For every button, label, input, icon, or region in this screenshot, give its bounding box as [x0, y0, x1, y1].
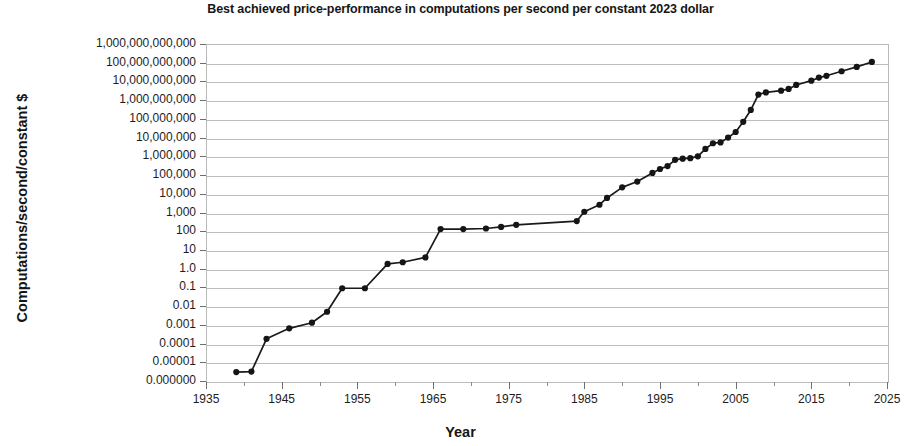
data-point — [422, 254, 428, 260]
data-point — [778, 88, 784, 94]
chart-figure: Best achieved price-performance in compu… — [0, 0, 921, 446]
data-point — [740, 119, 746, 125]
data-point — [400, 259, 406, 265]
data-point — [725, 135, 731, 141]
data-point — [793, 82, 799, 88]
data-point — [702, 146, 708, 152]
data-point — [574, 218, 580, 224]
data-point — [385, 261, 391, 267]
data-point — [460, 226, 466, 232]
data-point — [786, 86, 792, 92]
data-point — [755, 91, 761, 97]
data-point — [596, 202, 602, 208]
data-point — [263, 336, 269, 342]
data-point — [854, 64, 860, 70]
data-point — [339, 285, 345, 291]
data-point — [649, 170, 655, 176]
data-point — [763, 89, 769, 95]
data-point — [286, 325, 292, 331]
data-point — [619, 184, 625, 190]
data-point — [733, 129, 739, 135]
data-point — [672, 157, 678, 163]
data-point — [581, 209, 587, 215]
data-point — [816, 75, 822, 81]
data-point — [710, 140, 716, 146]
data-point — [437, 226, 443, 232]
data-point — [483, 225, 489, 231]
data-point — [324, 309, 330, 315]
data-point — [513, 222, 519, 228]
series-line-best-price-performance — [236, 62, 872, 372]
data-point — [869, 59, 875, 65]
data-point — [687, 155, 693, 161]
data-point — [680, 156, 686, 162]
data-point — [717, 139, 723, 145]
data-point — [748, 107, 754, 113]
data-point — [657, 166, 663, 172]
data-point — [695, 153, 701, 159]
data-point — [233, 369, 239, 375]
data-point — [634, 178, 640, 184]
data-series-layer — [0, 0, 921, 446]
data-point — [248, 368, 254, 374]
series-markers — [233, 59, 875, 375]
data-point — [839, 68, 845, 74]
data-point — [604, 195, 610, 201]
data-point — [498, 224, 504, 230]
data-point — [664, 163, 670, 169]
data-point — [823, 73, 829, 79]
data-point — [808, 78, 814, 84]
data-point — [309, 320, 315, 326]
data-point — [362, 285, 368, 291]
